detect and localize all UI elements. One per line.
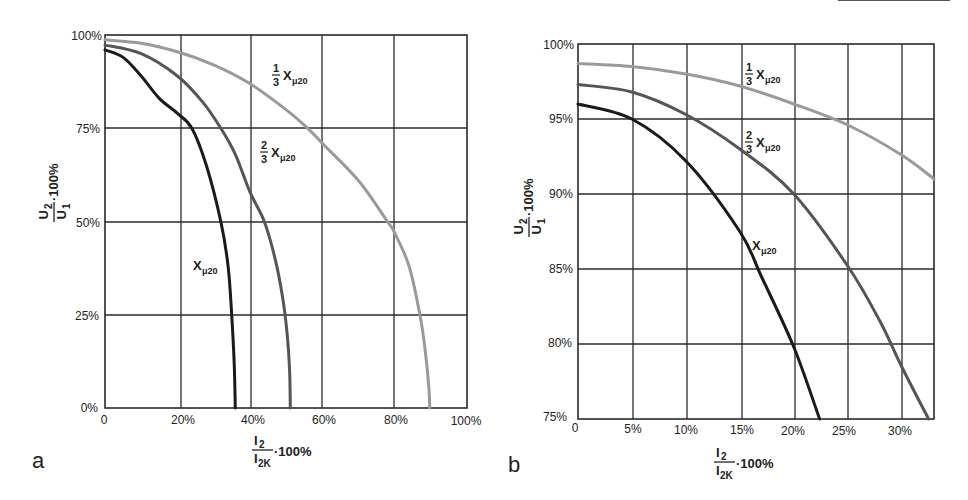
x-tick: 20%	[781, 424, 805, 438]
fraction-numerator: 1	[273, 62, 279, 74]
x-tick: 20%	[171, 413, 195, 427]
y-tick: 95%	[549, 112, 573, 126]
x-tick: 0	[101, 413, 108, 427]
panel-b: 100% 95% 90% 85% 80% 75% 0 5% 10% 15% 20…	[508, 38, 934, 481]
curve-two-thirds-xmu20	[105, 45, 290, 408]
y-tick: 25%	[75, 309, 99, 323]
panel-b-y-ticks: 100% 95% 90% 85% 80% 75%	[543, 38, 574, 424]
y-tick: 75%	[76, 122, 100, 136]
fraction-numerator: 1	[746, 61, 752, 73]
annotation-two-thirds-xmu20: 2 3 X μ20	[260, 139, 296, 165]
y-tick: 75%	[543, 410, 567, 424]
y-tick: 50%	[76, 216, 100, 230]
panel-b-y-axis-label: U 2 U 1 ·100%	[511, 178, 547, 237]
x-tick: 10%	[674, 423, 698, 437]
x-tick: 40%	[241, 413, 265, 427]
annotation-one-third-xmu20: 1 3 X μ20	[272, 62, 308, 88]
fraction-denominator: 3	[261, 153, 267, 165]
annotation-xmu20: X μ20	[752, 238, 777, 256]
xlabel-numerator: I	[254, 433, 258, 448]
y-tick: 0%	[81, 401, 99, 415]
panel-a-grid	[105, 35, 467, 408]
panel-a-x-axis-label: I 2 I 2K ·100%	[252, 433, 312, 469]
xlabel-denominator-sub: 2K	[720, 470, 734, 481]
y-tick: 100%	[71, 29, 102, 43]
y-tick: 100%	[543, 38, 574, 52]
fraction-numerator: 2	[746, 129, 752, 141]
fraction-denominator: 3	[273, 76, 279, 88]
xlabel-tail: ·100%	[274, 444, 312, 459]
x-symbol: X	[756, 135, 765, 150]
panel-b-x-ticks: 0 5% 10% 15% 20% 25% 30%	[572, 421, 913, 438]
figure-canvas: 100% 75% 50% 25% 0% 0 20% 40% 60% 80% 10…	[0, 0, 968, 500]
panel-b-x-axis-label: I 2 I 2K ·100%	[714, 445, 774, 481]
ylabel-denominator: U	[529, 225, 544, 234]
ylabel-tail: ·100%	[46, 163, 61, 201]
annotation-xmu20: X μ20	[193, 258, 218, 276]
x-symbol: X	[752, 238, 761, 253]
panel-letter-a: a	[32, 448, 45, 473]
x-tick: 60%	[312, 413, 336, 427]
x-subscript: μ20	[765, 143, 781, 153]
ylabel-denominator-sub: 1	[61, 203, 72, 209]
fraction-numerator: 2	[261, 139, 267, 151]
ylabel-numerator: U	[511, 225, 526, 234]
curve-xmu20	[578, 104, 820, 419]
x-subscript: μ20	[202, 266, 218, 276]
panel-letter-b: b	[508, 452, 520, 477]
xlabel-numerator: I	[716, 445, 720, 460]
x-symbol: X	[271, 145, 280, 160]
panel-b-grid	[578, 44, 934, 419]
fraction-denominator: 3	[746, 143, 752, 155]
ylabel-denominator-sub: 1	[536, 218, 547, 224]
x-subscript: μ20	[761, 246, 777, 256]
x-subscript: μ20	[765, 75, 781, 85]
x-tick: 80%	[384, 413, 408, 427]
panel-a-curves	[105, 40, 430, 408]
y-tick: 90%	[549, 187, 573, 201]
panel-a-y-ticks: 100% 75% 50% 25% 0%	[71, 29, 102, 415]
ylabel-denominator: U	[54, 210, 69, 219]
x-symbol: X	[756, 67, 765, 82]
ylabel-numerator-sub: 2	[43, 203, 54, 209]
panel-a-y-axis-label: U 2 U 1 ·100%	[36, 163, 72, 222]
x-tick: 25%	[832, 424, 856, 438]
curve-xmu20	[105, 50, 235, 408]
x-tick: 30%	[888, 424, 912, 438]
xlabel-numerator-sub: 2	[721, 451, 727, 462]
y-tick: 80%	[548, 336, 572, 350]
x-symbol: X	[193, 258, 202, 273]
x-subscript: μ20	[280, 153, 296, 163]
ylabel-numerator: U	[36, 210, 51, 219]
annotation-two-thirds-xmu20: 2 3 X μ20	[745, 129, 781, 155]
ylabel-numerator-sub: 2	[518, 218, 529, 224]
xlabel-tail: ·100%	[736, 456, 774, 471]
annotation-one-third-xmu20: 1 3 X μ20	[745, 61, 781, 87]
xlabel-denominator-sub: 2K	[258, 458, 272, 469]
fraction-denominator: 3	[746, 75, 752, 87]
xlabel-numerator-sub: 2	[259, 439, 265, 450]
ylabel-tail: ·100%	[521, 178, 536, 216]
panel-a-x-ticks: 0 20% 40% 60% 80% 100%	[101, 413, 482, 428]
panel-a: 100% 75% 50% 25% 0% 0 20% 40% 60% 80% 10…	[32, 29, 482, 473]
x-tick: 15%	[730, 423, 754, 437]
x-tick: 0	[572, 421, 579, 435]
y-tick: 85%	[549, 262, 573, 276]
x-subscript: μ20	[292, 76, 308, 86]
x-tick: 5%	[624, 422, 642, 436]
curve-one-third-xmu20	[105, 40, 430, 408]
x-symbol: X	[283, 68, 292, 83]
x-tick: 100%	[451, 414, 482, 428]
